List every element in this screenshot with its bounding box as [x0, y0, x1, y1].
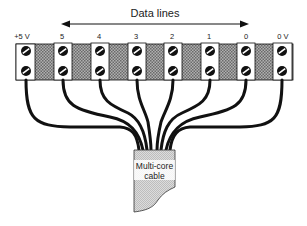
data-lines-label: Data lines: [131, 7, 180, 19]
terminal-label-0v: 0 V: [277, 32, 288, 41]
terminal-label-2: 2: [170, 32, 174, 41]
multi-core-cable: [134, 150, 175, 212]
data-lines-arrow: [61, 21, 249, 28]
wire-0v: [170, 80, 282, 150]
terminal-labels: +5 V 5 4 3 2 1 0 0 V: [14, 32, 288, 41]
cable-label-line2: cable: [144, 171, 165, 181]
terminal-label-1: 1: [207, 32, 211, 41]
terminal-label-0: 0: [244, 32, 248, 41]
terminal-label-4: 4: [97, 32, 101, 41]
terminal-label-3: 3: [134, 32, 138, 41]
cable-label-line1: Multi-core: [136, 161, 174, 171]
terminal-label-5: 5: [60, 32, 64, 41]
terminal-wiring-diagram: Data lines +5 V 5 4 3 2 1 0 0 V: [0, 0, 307, 226]
wire-plus5v: [26, 80, 139, 150]
wires: [26, 80, 282, 150]
terminal-label-plus5v: +5 V: [14, 32, 30, 41]
